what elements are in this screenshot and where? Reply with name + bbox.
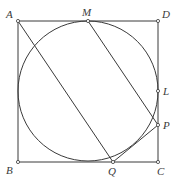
point-a-marker [16,19,19,22]
point-m-marker [86,19,89,22]
label-d: D [161,8,170,20]
label-l: L [162,85,169,97]
segment-aq [18,21,113,162]
label-a: A [5,8,13,20]
label-p: P [162,119,170,131]
point-b-marker [16,160,19,163]
point-p-marker [156,123,159,126]
segment-pq [113,125,158,162]
label-c: C [157,165,165,177]
label-b: B [6,164,13,176]
label-q: Q [108,165,116,177]
inscribed-circle [18,21,158,161]
point-c-marker [156,160,159,163]
point-d-marker [156,19,159,22]
point-q-marker [111,160,114,163]
label-m: M [81,6,92,18]
point-l-marker [156,89,159,92]
geometry-diagram: A M D L P B Q C [0,0,176,191]
segment-mp [88,21,158,125]
